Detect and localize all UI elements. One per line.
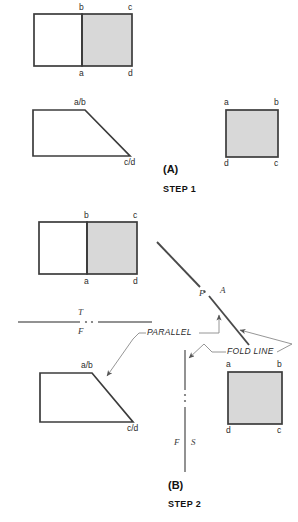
vertical-fold-line-dot-2 [184, 400, 186, 402]
step1-side-view-group [226, 110, 278, 157]
step2-aux-view-group [228, 372, 282, 424]
step1-front-view-label-ab: a/b [74, 98, 86, 107]
horizontal-fold-line-dot-1 [85, 321, 87, 323]
step2-aux-view-label-d: d [226, 426, 231, 435]
step2-top-view-right-square-shaded [87, 222, 137, 274]
step2-top-view-left-square [39, 222, 87, 274]
step2-aux-view-label-c: c [277, 426, 281, 435]
figure-part-a-label: (A) [163, 164, 178, 175]
parallel-leader-right [199, 315, 219, 333]
step1-side-view-label-d: d [224, 159, 229, 168]
step1-top-view-right-square-shaded [82, 14, 132, 66]
parallel-leader-left-line [107, 333, 146, 376]
step1-top-view-group [34, 14, 132, 66]
diagonal-fold-line-label-f: F [199, 289, 205, 298]
diagonal-fold-line-upper-segment [157, 242, 200, 287]
step2-top-view-label-c: c [133, 211, 137, 220]
step1-top-view-left-square [34, 14, 82, 66]
parallel-leader-right-line [199, 315, 219, 333]
step2-aux-view-label-b: b [277, 360, 282, 369]
step2-front-view-label-cd: c/d [127, 424, 138, 433]
step1-front-view-group [33, 110, 130, 156]
diagonal-fold-line-label-a: A [220, 286, 226, 295]
step2-top-view-label-a: a [84, 277, 89, 286]
step2-front-view-group [40, 373, 133, 422]
step1-top-view-label-d: d [128, 69, 133, 78]
horizontal-fold-line-label-t: T [78, 308, 83, 317]
step1-front-view-label-cd: c/d [124, 158, 135, 167]
step2-front-view-trapezoid [40, 373, 133, 422]
parallel-annotation-label: PARALLEL [147, 328, 192, 337]
step2-aux-view-square-shaded [228, 372, 282, 424]
step1-top-view-label-b: b [79, 3, 84, 12]
technical-drawing-canvas [0, 0, 298, 522]
step1-side-view-label-b: b [274, 98, 279, 107]
figure-sheet: b c a d a/b c/d a b d c (A) STEP 1 b c a… [0, 0, 298, 522]
step1-side-view-label-c: c [274, 159, 278, 168]
parallel-leader-left [107, 333, 146, 376]
step-2-caption: STEP 2 [168, 500, 201, 509]
horizontal-fold-line-group [18, 321, 152, 323]
step1-side-view-label-a: a [224, 98, 229, 107]
fold-line-leader-left [189, 344, 226, 358]
step2-aux-view-label-a: a [226, 360, 231, 369]
figure-part-b-label: (B) [168, 480, 183, 491]
horizontal-fold-line-label-f: F [78, 327, 84, 336]
step1-top-view-label-a: a [79, 69, 84, 78]
vertical-fold-line-dot-1 [184, 394, 186, 396]
step1-top-view-label-c: c [128, 3, 132, 12]
step1-front-view-trapezoid [33, 110, 130, 156]
vertical-fold-line-group [184, 350, 186, 472]
diagonal-fold-line-lower-segment [209, 296, 249, 345]
step2-top-view-label-b: b [84, 211, 89, 220]
step2-top-view-label-d: d [133, 277, 138, 286]
fold-line-leader-left-line [189, 344, 226, 358]
vertical-fold-line-label-f: F [174, 438, 180, 447]
fold-line-annotation-label: FOLD LINE [227, 347, 274, 356]
step2-front-view-label-ab: a/b [81, 361, 93, 370]
step2-top-view-group [39, 222, 137, 274]
step1-side-view-square-shaded [226, 110, 278, 157]
horizontal-fold-line-dot-2 [91, 321, 93, 323]
vertical-fold-line-label-s: S [191, 438, 196, 447]
step-1-caption: STEP 1 [163, 185, 196, 194]
